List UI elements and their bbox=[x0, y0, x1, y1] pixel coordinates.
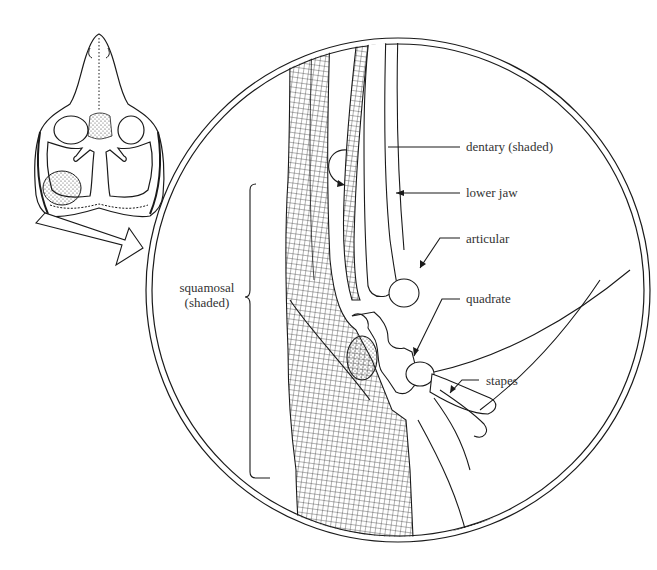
label-dentary: dentary (shaded) bbox=[466, 139, 553, 154]
skull-dorsal-view bbox=[35, 34, 164, 217]
label-quadrate: quadrate bbox=[466, 291, 511, 306]
label-lower-jaw: lower jaw bbox=[466, 185, 518, 200]
label-articular: articular bbox=[466, 231, 509, 246]
dentary-curved-arrow bbox=[329, 150, 347, 184]
inset-contents bbox=[286, 30, 630, 560]
magnify-arrow bbox=[36, 213, 143, 265]
label-squamosal: squamosal (shaded) bbox=[172, 280, 242, 310]
squamosal-bracket bbox=[245, 184, 270, 478]
label-squamosal-name: squamosal bbox=[172, 280, 242, 295]
label-stapes: stapes bbox=[486, 373, 518, 388]
label-squamosal-note: (shaded) bbox=[172, 295, 242, 310]
illustration-canvas bbox=[0, 0, 657, 570]
